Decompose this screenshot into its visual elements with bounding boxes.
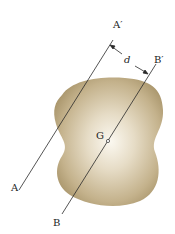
label-b: B xyxy=(53,217,60,228)
label-b-prime: B′ xyxy=(154,54,164,65)
label-a: A xyxy=(10,182,19,193)
centroid-g-marker xyxy=(106,139,109,142)
diagram-canvas: A′ A B′ B d G xyxy=(0,0,175,234)
label-d: d xyxy=(124,54,130,65)
label-a-prime: A′ xyxy=(112,19,123,30)
label-g: G xyxy=(96,130,104,141)
